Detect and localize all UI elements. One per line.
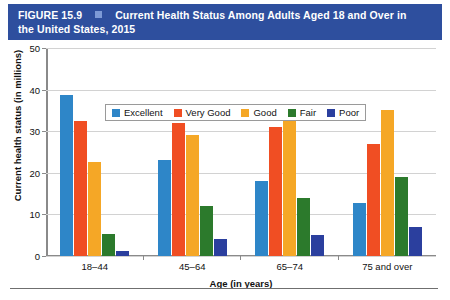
x-tick-label: 45–64 [179,261,205,272]
bar-good[interactable] [283,121,296,256]
y-tick-label: 40 [29,84,40,95]
square-bullet-icon [95,11,102,18]
bar-group: 45–64 [144,48,242,256]
x-tick-mark [338,256,339,260]
legend-item-fair[interactable]: Fair [288,107,316,118]
legend-item-good[interactable]: Good [241,107,276,118]
bar-group: 65–74 [241,48,339,256]
legend-label: Excellent [124,107,163,118]
legend-swatch-icon [327,109,335,117]
legend-item-poor[interactable]: Poor [327,107,359,118]
bar-fair[interactable] [395,177,408,256]
bar-group: 18–44 [46,48,144,256]
y-tick-label: 0 [35,251,40,262]
bar-very-good[interactable] [74,121,87,256]
bar-good[interactable] [88,162,101,256]
legend-swatch-icon [241,109,249,117]
x-tick-label: 75 and over [362,261,412,272]
figure-title-line-2: the United States, 2015 [18,22,432,36]
bar-excellent[interactable] [60,95,73,256]
bar-fair[interactable] [200,206,213,256]
bar-fair[interactable] [297,198,310,256]
legend-label: Fair [300,107,316,118]
bar-good[interactable] [381,110,394,256]
figure-header-line-1: FIGURE 15.9 Current Health Status Among … [18,8,432,22]
bar-groups: 18–4445–6465–7475 and over [46,48,436,256]
x-tick-label: 65–74 [277,261,303,272]
y-tick-label: 50 [29,43,40,54]
chart-container: Current health status (in millions) 0102… [0,42,450,277]
x-tick-mark [240,256,241,260]
figure-header-bar: FIGURE 15.9 Current Health Status Among … [8,4,442,40]
y-tick-label: 30 [29,126,40,137]
y-tick-label: 10 [29,209,40,220]
bar-poor[interactable] [311,235,324,256]
legend-item-very-good[interactable]: Very Good [174,107,231,118]
plot-area: 01020304050 18–4445–6465–7475 and over [46,48,436,256]
bar-fair[interactable] [102,234,115,256]
bar-very-good[interactable] [172,123,185,256]
bottom-divider [10,288,438,289]
bar-poor[interactable] [116,251,129,256]
x-tick-mark [143,256,144,260]
legend-label: Poor [339,107,359,118]
legend-label: Very Good [186,107,231,118]
bar-very-good[interactable] [269,127,282,256]
legend-swatch-icon [288,109,296,117]
legend-swatch-icon [112,109,120,117]
bar-poor[interactable] [214,239,227,256]
y-axis-title: Current health status (in millions) [12,41,23,211]
chart-legend: ExcellentVery GoodGoodFairPoor [105,104,366,121]
figure-number: FIGURE 15.9 [18,9,82,21]
bar-poor[interactable] [409,227,422,256]
bar-group: 75 and over [339,48,437,256]
legend-label: Good [253,107,276,118]
bar-excellent[interactable] [158,160,171,256]
gridline [46,256,436,257]
x-tick-label: 18–44 [82,261,108,272]
legend-swatch-icon [174,109,182,117]
bar-excellent[interactable] [255,181,268,256]
bar-very-good[interactable] [367,144,380,256]
bar-excellent[interactable] [353,203,366,256]
legend-item-excellent[interactable]: Excellent [112,107,163,118]
y-tick-mark [42,256,46,257]
bar-good[interactable] [186,135,199,256]
y-tick-label: 20 [29,167,40,178]
figure-title-line-1: Current Health Status Among Adults Aged … [115,9,406,21]
